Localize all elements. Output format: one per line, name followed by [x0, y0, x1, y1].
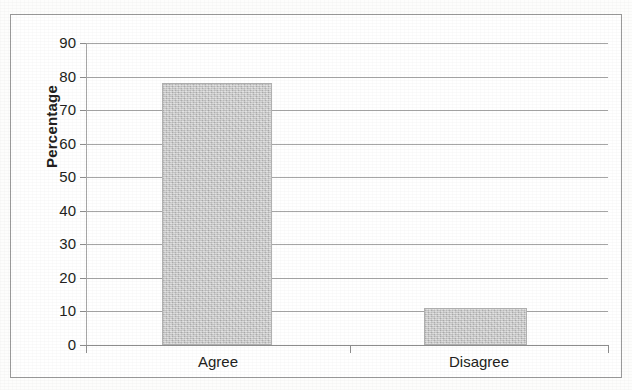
- x-category-label-disagree: Disagree: [350, 353, 608, 370]
- y-tick-mark-80: [80, 77, 86, 78]
- y-tick-mark-90: [80, 43, 86, 44]
- y-tick-label-40: 40: [36, 203, 76, 218]
- y-tick-mark-70: [80, 110, 86, 111]
- y-tick-mark-60: [80, 144, 86, 145]
- x-category-label-agree: Agree: [86, 353, 350, 370]
- y-tick-label-20: 20: [36, 270, 76, 285]
- x-tick-mark-start: [86, 346, 87, 353]
- y-axis-line: [86, 43, 87, 346]
- x-tick-mark-end: [608, 346, 609, 353]
- y-tick-mark-30: [80, 244, 86, 245]
- y-tick-label-30: 30: [36, 236, 76, 251]
- y-tick-mark-10: [80, 311, 86, 312]
- y-tick-mark-20: [80, 278, 86, 279]
- bar-agree: [162, 83, 272, 345]
- gridline-90: [86, 43, 608, 44]
- y-tick-label-90: 90: [36, 35, 76, 50]
- bar-disagree: [424, 308, 527, 345]
- y-tick-mark-40: [80, 211, 86, 212]
- y-tick-label-10: 10: [36, 303, 76, 318]
- x-axis-line: [86, 345, 609, 346]
- y-tick-mark-50: [80, 177, 86, 178]
- plot-area: [86, 43, 608, 345]
- y-tick-label-0: 0: [36, 337, 76, 352]
- x-tick-mark-middle: [350, 346, 351, 353]
- bar-chart-figure: 90 80 70 60 50 40 30 20 10 0 Percentage …: [0, 0, 632, 390]
- y-axis-title: Percentage: [43, 67, 60, 187]
- gridline-80: [86, 77, 608, 78]
